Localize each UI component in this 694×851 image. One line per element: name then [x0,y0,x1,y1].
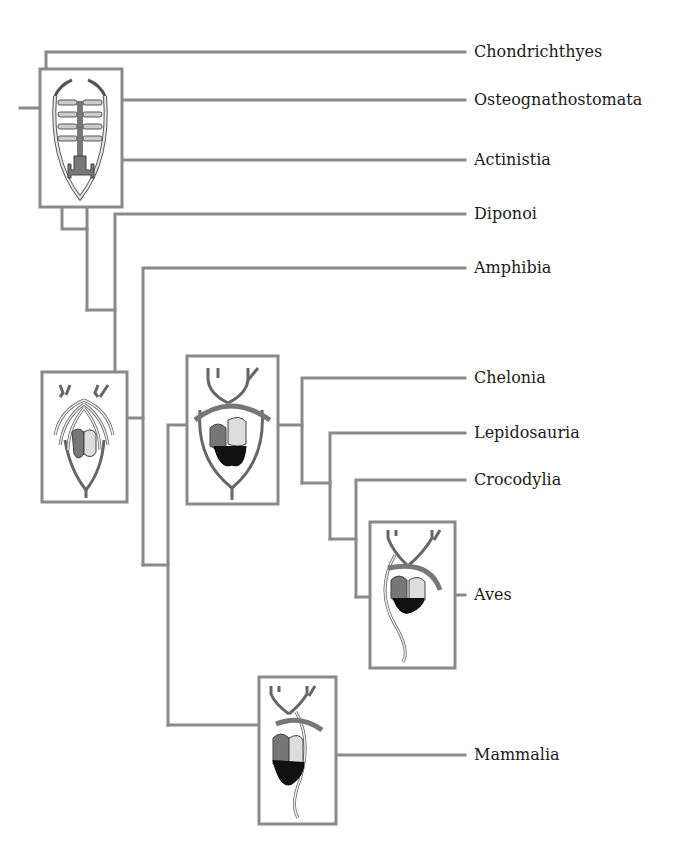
taxon-label-crocodylia: Crocodylia [474,472,561,488]
taxon-label-actinistia: Actinistia [474,152,551,168]
taxon-label-aves: Aves [474,587,512,603]
reptile-heart-diagram [187,356,278,504]
cladogram-figure: Chondrichthyes Osteognathostomata Actini… [0,0,694,851]
taxon-label-chelonia: Chelonia [474,370,546,386]
fish-heart-diagram [40,69,122,207]
taxon-label-mammalia: Mammalia [474,747,560,763]
taxon-label-diponoi: Diponoi [474,206,537,222]
bird-heart-diagram [370,522,455,668]
cladogram-tree [0,0,694,851]
taxon-label-chondrichthyes: Chondrichthyes [474,44,602,60]
taxon-label-lepidosauria: Lepidosauria [474,425,580,441]
mammal-heart-diagram [259,677,336,824]
lungfish-heart-diagram [42,372,127,502]
taxon-label-osteognathostomata: Osteognathostomata [474,92,642,108]
taxon-label-amphibia: Amphibia [474,260,551,276]
